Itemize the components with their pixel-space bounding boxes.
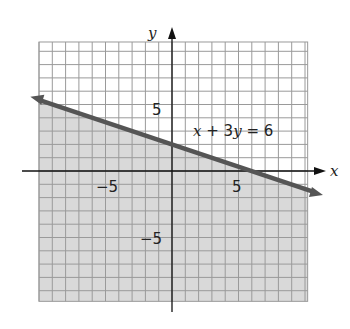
y-tick-neg5: −5 [140,230,162,248]
x-tick-5: 5 [232,178,242,196]
x-axis-label: x [330,162,339,180]
equation-label: x + 3y = 6 [193,122,273,140]
y-tick-5: 5 [152,101,162,119]
y-axis-label: y [147,24,157,42]
x-tick-neg5: −5 [96,178,118,196]
coordinate-plane: y x −5 5 5 −5 x + 3y = 6 [0,0,350,329]
